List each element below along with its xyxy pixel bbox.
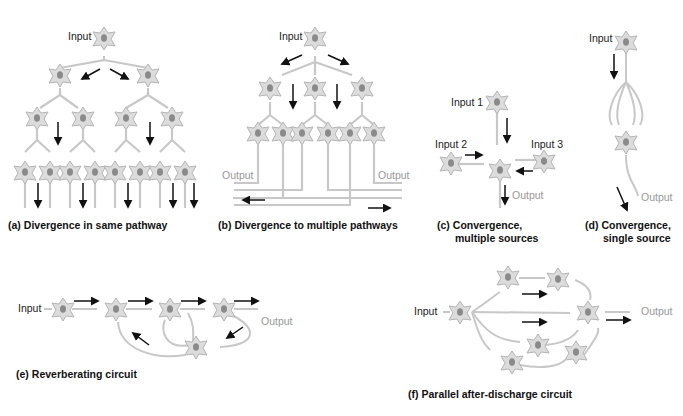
panel-e-input-label: Input xyxy=(18,302,41,314)
panel-e-neurons xyxy=(52,298,235,359)
neural-circuits-diagram xyxy=(0,0,683,416)
panel-a-diagram xyxy=(25,56,185,208)
panel-e-output-label: Output xyxy=(261,315,293,327)
panel-a-neurons xyxy=(14,27,196,184)
panel-a-caption: (a)Divergence in same pathway xyxy=(8,219,167,232)
panel-a-caption-text: Divergence in same pathway xyxy=(24,219,168,231)
panel-a-input-label: Input xyxy=(68,30,91,42)
panel-f-input-label: Input xyxy=(414,305,437,317)
panel-b-output-left-label: Output xyxy=(222,169,254,181)
panel-f-neurons xyxy=(449,266,599,374)
panel-d-caption-line2: single source xyxy=(585,232,671,245)
panel-c-caption: (c)Convergence, multiple sources xyxy=(437,219,538,245)
panel-f-arrows xyxy=(522,294,630,322)
panel-b-input-label: Input xyxy=(279,30,302,42)
panel-c-input1-label: Input 1 xyxy=(451,96,483,108)
panel-b-caption: (b)Divergence to multiple pathways xyxy=(218,219,398,232)
panel-c-tag: (c) xyxy=(437,219,450,231)
panel-b-output-right-label: Output xyxy=(378,169,410,181)
panel-d-output-label: Output xyxy=(641,191,673,203)
panel-c-input2-label: Input 2 xyxy=(435,138,467,150)
panel-d-input-label: Input xyxy=(589,32,612,44)
panel-f-tag: (f) xyxy=(408,388,419,400)
panel-d-caption: (d)Convergence, single source xyxy=(585,219,671,245)
panel-e-caption: (e)Reverberating circuit xyxy=(16,368,137,381)
panel-b-caption-text: Divergence to multiple pathways xyxy=(234,219,397,231)
panel-c-caption-line1: Convergence, xyxy=(453,219,522,231)
panel-a-tag: (a) xyxy=(8,219,21,231)
panel-f-output-label: Output xyxy=(641,305,673,317)
panel-e-caption-text: Reverberating circuit xyxy=(32,368,137,380)
panel-b-neurons xyxy=(247,27,385,145)
panel-f-caption-text: Parallel after-discharge circuit xyxy=(422,388,573,400)
panel-c-caption-line2: multiple sources xyxy=(437,232,538,245)
panel-e-tag: (e) xyxy=(16,368,29,380)
panel-d-caption-line1: Convergence, xyxy=(601,219,670,231)
panel-f-caption: (f)Parallel after-discharge circuit xyxy=(408,388,572,401)
panel-c-input3-label: Input 3 xyxy=(531,138,563,150)
panel-b-tag: (b) xyxy=(218,219,231,231)
panel-d-tag: (d) xyxy=(585,219,598,231)
panel-c-output-label: Output xyxy=(512,189,544,201)
